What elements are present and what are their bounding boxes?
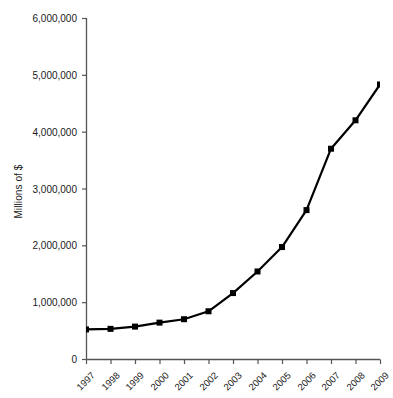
line-chart: Millions of $ 01,000,0002,000,0003,000,0… [0, 0, 393, 398]
data-point-marker [255, 268, 261, 274]
data-point-marker [377, 81, 380, 87]
data-point-marker [279, 244, 285, 250]
data-point-marker [86, 326, 89, 332]
data-point-marker [206, 308, 212, 314]
data-point-marker [108, 326, 114, 332]
data-point-marker [353, 117, 359, 123]
data-point-marker [328, 146, 334, 152]
data-point-marker [181, 316, 187, 322]
chart-plot-area [86, 18, 380, 359]
data-series-markers [86, 81, 380, 332]
data-point-marker [230, 290, 236, 296]
data-point-marker [157, 320, 163, 326]
data-point-marker [132, 324, 138, 330]
data-point-marker [304, 207, 310, 213]
